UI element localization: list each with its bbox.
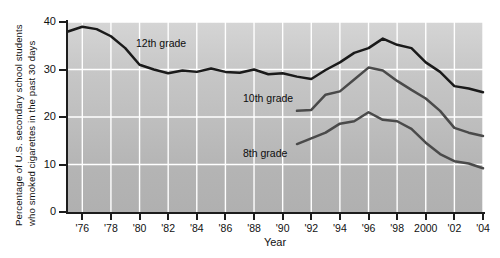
x-tick-1990 bbox=[282, 214, 284, 220]
x-tick-1992 bbox=[310, 214, 312, 220]
chart-figure: Percentage of U.S. secondary school stud… bbox=[0, 0, 500, 258]
x-tick-label-1980: '80 bbox=[133, 222, 147, 234]
y-tick-label-10: 10 bbox=[16, 158, 56, 170]
y-tick-30 bbox=[59, 69, 66, 71]
y-tick-0 bbox=[59, 211, 66, 213]
series-line-8th-grade bbox=[297, 112, 483, 168]
y-tick-20 bbox=[59, 116, 66, 118]
x-tick-label-1998: '98 bbox=[390, 222, 404, 234]
data-lines bbox=[68, 22, 483, 212]
y-axis-line bbox=[66, 20, 68, 214]
x-tick-1976 bbox=[81, 214, 83, 220]
x-tick-1998 bbox=[396, 214, 398, 220]
series-line-10th-grade bbox=[297, 68, 483, 136]
x-tick-2000 bbox=[425, 214, 427, 220]
x-tick-label-1978: '78 bbox=[104, 222, 118, 234]
x-tick-label-2002: '02 bbox=[448, 222, 462, 234]
x-tick-1982 bbox=[167, 214, 169, 220]
y-tick-40 bbox=[59, 21, 66, 23]
x-tick-label-2004: '04 bbox=[476, 222, 490, 234]
x-axis-title: Year bbox=[67, 236, 483, 248]
x-tick-label-1982: '82 bbox=[161, 222, 175, 234]
x-tick-1978 bbox=[110, 214, 112, 220]
x-tick-label-2000: 2000 bbox=[414, 222, 437, 234]
x-tick-1986 bbox=[224, 214, 226, 220]
x-tick-1984 bbox=[196, 214, 198, 220]
series-label-12th-grade: 12th grade bbox=[136, 37, 186, 49]
y-tick-label-30: 30 bbox=[16, 63, 56, 75]
x-tick-1980 bbox=[139, 214, 141, 220]
y-tick-label-40: 40 bbox=[16, 15, 56, 27]
y-tick-10 bbox=[59, 164, 66, 166]
x-tick-2004 bbox=[482, 214, 484, 220]
x-tick-1996 bbox=[368, 214, 370, 220]
y-tick-label-0: 0 bbox=[16, 205, 56, 217]
x-tick-1994 bbox=[339, 214, 341, 220]
x-tick-label-1994: '94 bbox=[333, 222, 347, 234]
x-tick-1988 bbox=[253, 214, 255, 220]
x-tick-label-1984: '84 bbox=[190, 222, 204, 234]
x-tick-label-1986: '86 bbox=[219, 222, 233, 234]
y-tick-label-20: 20 bbox=[16, 110, 56, 122]
x-tick-label-1990: '90 bbox=[276, 222, 290, 234]
y-axis-title-line-1: Percentage of U.S. secondary school stud… bbox=[13, 24, 24, 226]
x-axis-line bbox=[66, 212, 485, 214]
series-label-8th-grade: 8th grade bbox=[243, 147, 287, 159]
series-line-12th-grade bbox=[68, 27, 483, 93]
x-tick-label-1996: '96 bbox=[362, 222, 376, 234]
plot-area bbox=[68, 22, 483, 212]
x-tick-label-1976: '76 bbox=[75, 222, 89, 234]
series-label-10th-grade: 10th grade bbox=[243, 92, 293, 104]
x-tick-label-1992: '92 bbox=[304, 222, 318, 234]
x-tick-2002 bbox=[453, 214, 455, 220]
x-tick-label-1988: '88 bbox=[247, 222, 261, 234]
